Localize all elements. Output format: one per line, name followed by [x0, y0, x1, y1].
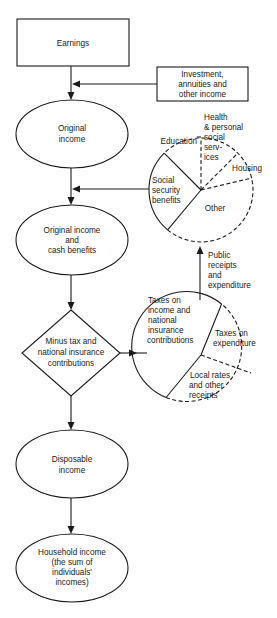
receipts-label-expenditure-2: expenditure — [213, 339, 256, 348]
receipts-label-income-2: income and — [148, 306, 191, 315]
benefits-line2: and — [65, 236, 79, 245]
arrow-receipts-to-expenditure: Public receipts and expenditure — [197, 246, 252, 300]
receipts-label-local-1: Local rates — [190, 371, 230, 380]
receipts-label-local-2: and other — [189, 381, 224, 390]
household-line4: incomes) — [55, 578, 88, 587]
expenditure-pie: Education Health & personal social serv-… — [149, 113, 262, 242]
connector-label-3: and — [208, 271, 222, 280]
arrow-tax-to-disposable — [68, 396, 75, 430]
benefits-line1: Original income — [44, 226, 101, 235]
household-income-node: Household income (the sum of individuals… — [16, 534, 128, 602]
receipts-label-expenditure-1: Taxes on — [215, 329, 248, 338]
pie-label-health-5: ices — [204, 153, 219, 162]
disposable-income-node: Disposable income — [16, 430, 128, 498]
pie-label-social-security-2: security — [152, 186, 181, 195]
arrow-original-to-benefits — [68, 168, 75, 205]
household-line2: (the sum of — [52, 558, 94, 567]
receipts-pie: Taxes on income and national insurance c… — [132, 291, 257, 401]
arrow-benefits-from-expenditure — [72, 186, 149, 193]
original-income-node: Original income — [16, 100, 128, 168]
receipts-label-local-3: receipts — [189, 391, 218, 400]
minus-tax-line2: national insurance — [38, 348, 105, 357]
receipts-label-income-1: Taxes on — [148, 296, 181, 305]
minus-tax-line3: contributions — [48, 359, 94, 368]
receipts-label-income-4: insurance — [148, 326, 184, 335]
minus-tax-line1: Minus tax and — [46, 337, 97, 346]
connector-label-4: expenditure — [208, 281, 251, 290]
original-income-line2: income — [59, 135, 86, 144]
housing-other-edge — [201, 178, 252, 190]
pie-label-health-2: & personal — [204, 123, 243, 132]
investment-node: Investment, annuities and other income — [157, 67, 248, 101]
investment-label-line1: Investment, — [181, 70, 223, 79]
original-income-line1: Original — [58, 124, 86, 133]
disposable-line2: income — [59, 466, 86, 475]
pie-label-other: Other — [205, 204, 226, 213]
investment-label-line2: annuities and — [178, 80, 227, 89]
original-income-benefits-node: Original income and cash benefits — [16, 205, 128, 275]
arrow-earnings-to-original — [68, 66, 75, 100]
income-flow-diagram: Earnings Investment, annuities and other… — [0, 0, 277, 618]
connector-label-2: receipts — [208, 261, 237, 270]
benefits-line3: cash benefits — [48, 246, 96, 255]
pie-label-health-3: social — [204, 133, 225, 142]
receipts-label-income-5: contributions — [147, 336, 193, 345]
pie-label-health-4: serv- — [204, 143, 222, 152]
minus-tax-node: Minus tax and national insurance contrib… — [22, 310, 120, 396]
receipts-label-income-3: national — [148, 316, 177, 325]
pie-label-education: Education — [161, 137, 198, 146]
pie-label-housing: Housing — [232, 164, 262, 173]
pie-label-social-security-3: benefits — [152, 196, 181, 205]
earnings-label: Earnings — [57, 39, 89, 48]
arrow-tax-to-receipts — [120, 350, 147, 357]
arrow-investment-to-original — [72, 81, 157, 88]
arrow-disposable-to-household — [68, 498, 75, 534]
arrow-benefits-to-tax — [68, 275, 75, 310]
earnings-node: Earnings — [17, 19, 129, 66]
pie-label-health-1: Health — [204, 113, 228, 122]
pie-label-social-security-1: Social — [152, 176, 174, 185]
household-line3: individuals' — [52, 568, 92, 577]
connector-label-1: Public — [208, 251, 230, 260]
disposable-line1: Disposable — [52, 455, 93, 464]
investment-label-line3: other income — [179, 90, 227, 99]
household-line1: Household income — [38, 548, 106, 557]
